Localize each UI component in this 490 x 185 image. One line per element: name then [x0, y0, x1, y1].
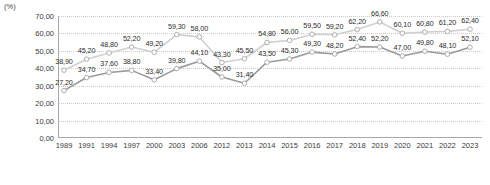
data-value-label: 43,30 [213, 49, 231, 58]
data-value-label: 52,20 [371, 34, 389, 43]
data-value-label: 49,80 [416, 38, 434, 47]
data-value-label: 48,80 [100, 39, 118, 48]
x-axis-tick-label: 1994 [101, 141, 118, 150]
data-value-label: 38,80 [123, 57, 141, 66]
data-value-label: 34,70 [78, 64, 96, 73]
data-value-label: 60,80 [416, 19, 434, 28]
data-value-label: 33,40 [145, 66, 163, 75]
data-value-label: 62,20 [348, 16, 366, 25]
x-axis-tick-label: 1991 [78, 141, 95, 150]
data-value-label: 31,40 [236, 70, 254, 79]
data-value-label: 52,20 [123, 34, 141, 43]
data-value-labels: 38,9045,2048,8052,2049,2059,3058,0043,30… [58, 16, 482, 138]
x-axis-tick-label: 2013 [236, 141, 253, 150]
data-value-label: 58,00 [191, 23, 209, 32]
y-axis-tick-label: 20,00 [35, 99, 54, 108]
data-value-label: 37,60 [100, 59, 118, 68]
x-axis-tick-label: 2012 [214, 141, 231, 150]
data-value-label: 38,90 [55, 57, 73, 66]
data-value-label: 35,00 [213, 64, 231, 73]
y-axis-tick-label: 70,00 [35, 12, 54, 21]
x-axis-tick-label: 2017 [326, 141, 343, 150]
data-value-label: 54,80 [258, 29, 276, 38]
data-value-label: 61,20 [439, 18, 457, 27]
y-axis-tick-label: 40,00 [35, 64, 54, 73]
y-axis-tick-label: 50,00 [35, 46, 54, 55]
data-value-label: 45,50 [236, 45, 254, 54]
x-axis-tick-label: 2016 [304, 141, 321, 150]
x-axis-tick-label: 2018 [349, 141, 366, 150]
x-axis-tick-label: 1997 [123, 141, 140, 150]
data-value-label: 48,20 [326, 40, 344, 49]
data-value-label: 49,20 [145, 39, 163, 48]
x-axis-tick-label: 2020 [394, 141, 411, 150]
data-value-label: 59,50 [303, 21, 321, 30]
data-value-label: 45,20 [78, 46, 96, 55]
data-value-label: 66,60 [371, 8, 389, 17]
data-value-label: 52,10 [461, 34, 479, 43]
x-axis-tick-label: 2021 [417, 141, 434, 150]
data-value-label: 44,10 [191, 48, 209, 57]
y-axis-tick-label: 60,00 [35, 29, 54, 38]
data-value-label: 59,30 [168, 21, 186, 30]
data-value-label: 52,40 [348, 33, 366, 42]
data-value-label: 47,00 [394, 43, 412, 52]
x-axis-tick-label: 2023 [462, 141, 479, 150]
data-value-label: 39,80 [168, 55, 186, 64]
data-value-label: 62,40 [461, 16, 479, 25]
data-value-label: 56,00 [281, 27, 299, 36]
data-value-label: 27,20 [55, 77, 73, 86]
x-axis-tick-label: 2000 [146, 141, 163, 150]
x-axis-tick-label: 2022 [439, 141, 456, 150]
y-axis-unit-label: (%) [4, 2, 16, 11]
data-value-label: 45,30 [281, 46, 299, 55]
x-axis-tick-label: 2003 [168, 141, 185, 150]
data-value-label: 60,10 [394, 20, 412, 29]
x-axis-tick-label: 2015 [281, 141, 298, 150]
y-axis-tick-label: 10,00 [35, 116, 54, 125]
data-value-label: 43,50 [258, 49, 276, 58]
x-axis-tick-label: 2006 [191, 141, 208, 150]
plot-area: 38,9045,2048,8052,2049,2059,3058,0043,30… [58, 16, 482, 138]
x-axis-tick-label: 2019 [371, 141, 388, 150]
line-chart: (%) 70,0060,0050,0040,0030,0020,0010,000… [0, 0, 490, 185]
data-value-label: 48,10 [439, 41, 457, 50]
y-axis-tick-label: 0,00 [39, 134, 54, 143]
x-axis-tick-label: 1989 [56, 141, 73, 150]
y-axis-tick-labels: 70,0060,0050,0040,0030,0020,0010,000,00 [0, 16, 54, 138]
data-value-label: 59,20 [326, 21, 344, 30]
y-axis-tick-label: 30,00 [35, 81, 54, 90]
x-axis-tick-label: 2014 [259, 141, 276, 150]
x-axis-tick-labels: 1989199119941997200020032006201220132014… [58, 141, 482, 157]
data-value-label: 49,30 [303, 39, 321, 48]
